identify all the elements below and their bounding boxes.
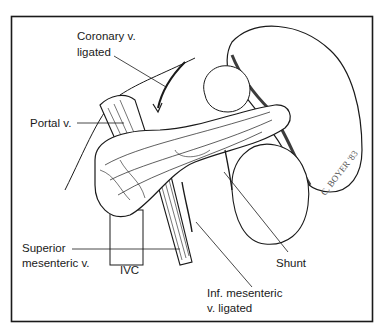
kidney-shape [232,144,309,244]
label-coronary-line1: Coronary v. [77,29,136,43]
shunt-vessel [225,150,232,190]
illustration-drawing: C. BOYER '83 [0,0,384,336]
ivc-shape [110,210,143,265]
label-coronary-line2: ligated [77,45,111,59]
label-ivc: IVC [120,263,139,277]
leader-coronary [114,56,166,87]
inferior-mesenteric-vein [182,182,192,232]
label-superior-mesenteric-line2: mesenteric v. [22,256,90,270]
label-superior-mesenteric-line1: Superior [22,241,65,255]
label-portal-vein: Portal v. [30,116,71,130]
label-inf-mesenteric-line2: v. ligated [207,301,252,315]
label-shunt: Shunt [276,256,306,270]
pancreas-tail-shape [204,66,250,112]
medical-illustration: C. BOYER '83 Coronary v. ligated Portal … [0,0,384,336]
leader-inf-mesenteric [196,222,252,287]
label-inf-mesenteric-line1: Inf. mesenteric [207,286,282,300]
